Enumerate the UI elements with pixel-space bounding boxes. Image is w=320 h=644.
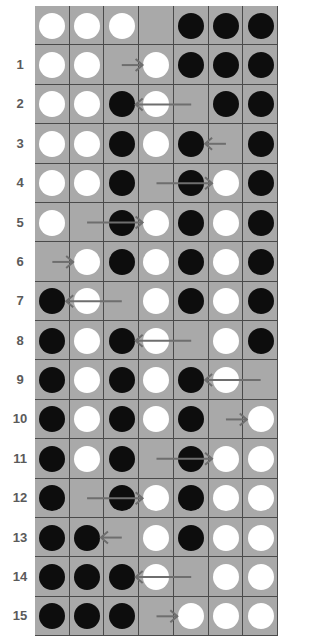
white-piece[interactable]	[143, 288, 169, 314]
board-cell[interactable]	[70, 242, 105, 281]
white-piece[interactable]	[74, 91, 100, 117]
board-cell[interactable]	[139, 6, 174, 45]
board-cell[interactable]	[209, 203, 244, 242]
white-piece[interactable]	[74, 406, 100, 432]
board-cell[interactable]	[243, 479, 278, 518]
board-cell[interactable]	[243, 124, 278, 163]
board-cell[interactable]	[35, 597, 70, 636]
white-piece[interactable]	[178, 603, 204, 629]
white-piece[interactable]	[143, 91, 169, 117]
white-piece[interactable]	[74, 131, 100, 157]
board-cell[interactable]	[209, 242, 244, 281]
black-piece[interactable]	[109, 446, 135, 472]
white-piece[interactable]	[74, 367, 100, 393]
board-cell[interactable]	[209, 479, 244, 518]
white-piece[interactable]	[143, 525, 169, 551]
board-cell[interactable]	[35, 124, 70, 163]
black-piece[interactable]	[248, 170, 274, 196]
board-cell[interactable]	[139, 45, 174, 84]
board-cell[interactable]	[104, 203, 139, 242]
white-piece[interactable]	[143, 406, 169, 432]
white-piece[interactable]	[74, 170, 100, 196]
white-piece[interactable]	[39, 170, 65, 196]
white-piece[interactable]	[39, 52, 65, 78]
board-cell[interactable]	[70, 164, 105, 203]
white-piece[interactable]	[213, 603, 239, 629]
board-cell[interactable]	[104, 45, 139, 84]
black-piece[interactable]	[178, 13, 204, 39]
board-cell[interactable]	[70, 124, 105, 163]
black-piece[interactable]	[178, 288, 204, 314]
white-piece[interactable]	[109, 13, 135, 39]
board-cell[interactable]	[243, 85, 278, 124]
board-cell[interactable]	[209, 360, 244, 399]
board-cell[interactable]	[139, 360, 174, 399]
black-piece[interactable]	[109, 328, 135, 354]
black-piece[interactable]	[109, 406, 135, 432]
black-piece[interactable]	[248, 13, 274, 39]
board-cell[interactable]	[243, 597, 278, 636]
black-piece[interactable]	[178, 525, 204, 551]
board-cell[interactable]	[209, 597, 244, 636]
board-cell[interactable]	[139, 518, 174, 557]
white-piece[interactable]	[248, 485, 274, 511]
white-piece[interactable]	[213, 564, 239, 590]
black-piece[interactable]	[248, 249, 274, 275]
board-cell[interactable]	[174, 400, 209, 439]
white-piece[interactable]	[143, 52, 169, 78]
black-piece[interactable]	[39, 288, 65, 314]
board-cell[interactable]	[243, 557, 278, 596]
board-cell[interactable]	[174, 518, 209, 557]
board-cell[interactable]	[139, 282, 174, 321]
board-cell[interactable]	[104, 597, 139, 636]
board-cell[interactable]	[70, 6, 105, 45]
black-piece[interactable]	[74, 603, 100, 629]
board-cell[interactable]	[35, 518, 70, 557]
black-piece[interactable]	[213, 91, 239, 117]
black-piece[interactable]	[248, 91, 274, 117]
white-piece[interactable]	[143, 564, 169, 590]
white-piece[interactable]	[74, 13, 100, 39]
board-cell[interactable]	[35, 400, 70, 439]
white-piece[interactable]	[143, 210, 169, 236]
board-cell[interactable]	[139, 242, 174, 281]
board-cell[interactable]	[35, 85, 70, 124]
black-piece[interactable]	[39, 328, 65, 354]
black-piece[interactable]	[109, 603, 135, 629]
white-piece[interactable]	[213, 367, 239, 393]
board-cell[interactable]	[35, 479, 70, 518]
white-piece[interactable]	[143, 131, 169, 157]
board-cell[interactable]	[174, 164, 209, 203]
board-cell[interactable]	[35, 439, 70, 478]
board-cell[interactable]	[243, 164, 278, 203]
board-cell[interactable]	[209, 518, 244, 557]
board-cell[interactable]	[35, 203, 70, 242]
black-piece[interactable]	[109, 367, 135, 393]
black-piece[interactable]	[39, 367, 65, 393]
board-cell[interactable]	[243, 282, 278, 321]
white-piece[interactable]	[39, 210, 65, 236]
white-piece[interactable]	[74, 288, 100, 314]
board-cell[interactable]	[35, 45, 70, 84]
board-cell[interactable]	[174, 439, 209, 478]
board-cell[interactable]	[174, 203, 209, 242]
white-piece[interactable]	[74, 249, 100, 275]
board-cell[interactable]	[174, 597, 209, 636]
white-piece[interactable]	[213, 288, 239, 314]
board-cell[interactable]	[70, 400, 105, 439]
board-cell[interactable]	[174, 360, 209, 399]
white-piece[interactable]	[213, 170, 239, 196]
white-piece[interactable]	[39, 13, 65, 39]
black-piece[interactable]	[178, 131, 204, 157]
white-piece[interactable]	[213, 210, 239, 236]
board-cell[interactable]	[70, 45, 105, 84]
white-piece[interactable]	[213, 485, 239, 511]
board-cell[interactable]	[104, 557, 139, 596]
black-piece[interactable]	[248, 288, 274, 314]
board-cell[interactable]	[139, 321, 174, 360]
black-piece[interactable]	[109, 249, 135, 275]
white-piece[interactable]	[248, 406, 274, 432]
board-cell[interactable]	[70, 439, 105, 478]
board-cell[interactable]	[70, 203, 105, 242]
black-piece[interactable]	[178, 446, 204, 472]
